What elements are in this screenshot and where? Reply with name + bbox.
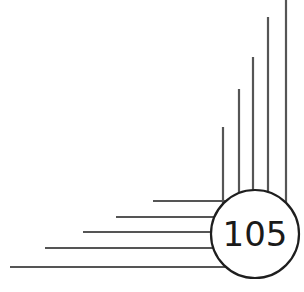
- page-number: 105: [223, 214, 288, 254]
- page-number-ornament: 105: [0, 0, 304, 292]
- decorative-lines: 105: [0, 0, 304, 292]
